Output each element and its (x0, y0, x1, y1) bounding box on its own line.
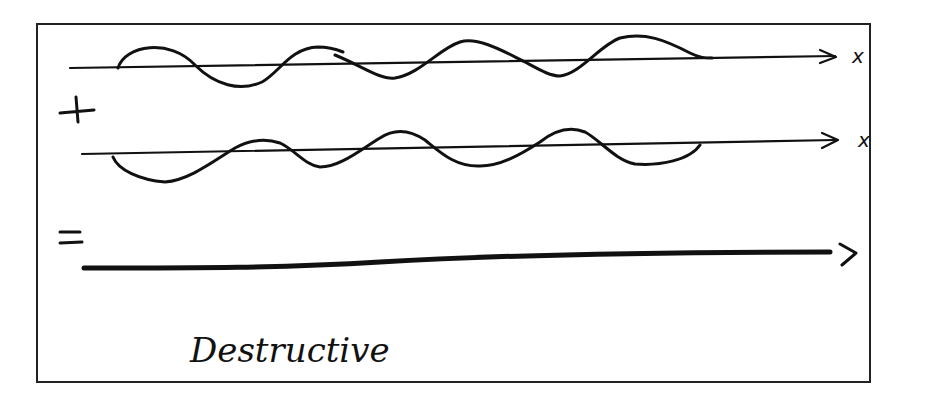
result-line (84, 252, 830, 268)
plus-icon (60, 97, 94, 122)
wave-1-curve (118, 36, 712, 87)
wave-2-axis (82, 140, 835, 154)
waves-drawing (0, 0, 926, 397)
caption-destructive: Destructive (190, 330, 390, 370)
wave-2-curve (113, 129, 700, 182)
equals-icon (60, 232, 82, 243)
result-arrowhead (840, 244, 856, 265)
wave-2-axis-label: x (858, 128, 870, 152)
wave-1-axis-label: x (852, 44, 864, 68)
